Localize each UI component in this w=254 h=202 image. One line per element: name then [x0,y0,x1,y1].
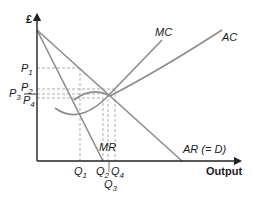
curves [37,30,222,161]
q4-label: Q4 [111,165,125,180]
mc-label: MC [155,26,172,38]
q3-label: Q3 [104,178,118,193]
mr-curve [37,30,103,161]
p4-label: P4 [23,94,35,109]
x-axis-label: Output [206,165,242,177]
q1-label: Q1 [74,165,87,180]
ac-curve [74,30,222,100]
p1-label: P1 [21,62,33,77]
mr-label: MR [99,141,116,153]
y-axis-label: £ [26,13,32,25]
ac-label: AC [221,31,237,43]
ar-label: AR (= D) [182,143,226,155]
monopoly-diagram: £ Output MC AC AR (= D) MR P1 P2 P3 P4 Q… [0,0,254,202]
p3-label: P3 [9,87,21,102]
